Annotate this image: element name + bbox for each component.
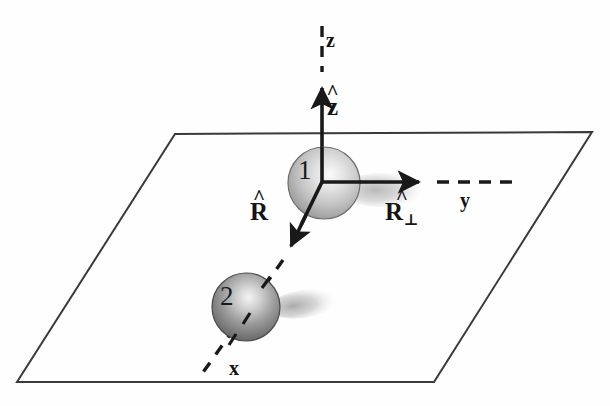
figure-canvas: z y x ^z ^R ^R⊥ 1 2: [0, 0, 610, 406]
z-axis-label: z: [326, 30, 335, 50]
sphere-2-label: 2: [220, 283, 234, 310]
y-axis-label: y: [460, 190, 470, 210]
perpendicular-subscript: ⊥: [404, 211, 419, 228]
diagram-svg: [0, 0, 610, 406]
z-unit-vector-label: ^z: [327, 94, 338, 119]
hat-accent-icon: ^: [396, 187, 408, 208]
hat-accent-icon: ^: [253, 187, 265, 208]
r-hat-glyph: ^R: [250, 199, 268, 224]
z-hat-glyph: ^z: [327, 94, 338, 119]
r-perp-hat-glyph: ^R⊥: [385, 199, 419, 227]
r-perp-unit-vector-label: ^R⊥: [385, 199, 419, 227]
x-axis-label: x: [229, 358, 239, 378]
hat-accent-icon: ^: [326, 82, 338, 103]
sphere-1-label: 1: [298, 157, 312, 184]
r-unit-vector-label: ^R: [250, 199, 268, 224]
